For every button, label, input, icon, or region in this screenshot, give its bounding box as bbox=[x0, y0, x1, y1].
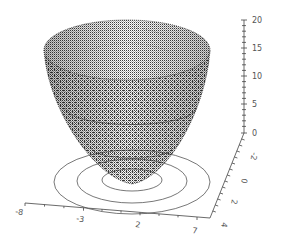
z-tick-label: 0 bbox=[252, 129, 257, 138]
y-tick-label: 2 bbox=[229, 199, 239, 206]
z-tick-label: 15 bbox=[252, 44, 262, 53]
z-axis-labels: 20 15 10 5 0 bbox=[252, 16, 262, 138]
x-tick-label: -8 bbox=[15, 207, 24, 217]
surface-shading bbox=[44, 20, 210, 184]
x-tick-label: -3 bbox=[76, 214, 85, 224]
y-axis bbox=[210, 133, 245, 218]
y-tick-label: 0 bbox=[239, 178, 249, 185]
y-tick-label: -2 bbox=[249, 152, 259, 161]
y-tick-label: 4 bbox=[219, 222, 229, 229]
x-tick-label: 2 bbox=[135, 220, 141, 230]
z-tick-label: 10 bbox=[252, 72, 262, 81]
paraboloid-3d-plot: 20 15 10 5 0 -2 0 2 4 bbox=[0, 0, 286, 243]
z-axis bbox=[241, 20, 247, 133]
z-tick-label: 5 bbox=[252, 100, 257, 109]
x-axis bbox=[25, 203, 210, 220]
x-tick-label: 7 bbox=[192, 226, 198, 236]
x-axis-labels: -8 -3 2 7 bbox=[15, 207, 198, 236]
y-axis-labels: -2 0 2 4 bbox=[219, 152, 259, 229]
paraboloid-surface bbox=[44, 20, 210, 184]
z-tick-label: 20 bbox=[252, 16, 262, 25]
